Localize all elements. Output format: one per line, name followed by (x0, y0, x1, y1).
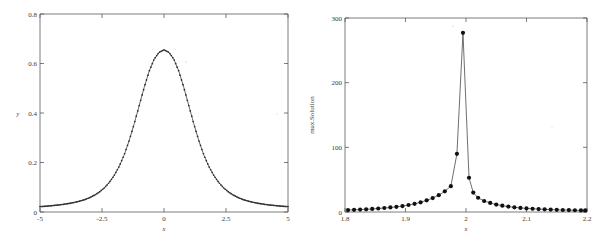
data-point (205, 160, 207, 162)
data-point (233, 195, 235, 197)
data-point (268, 204, 270, 206)
data-point (157, 53, 159, 55)
data-point (286, 206, 288, 208)
data-point (281, 205, 283, 207)
data-point (500, 204, 504, 208)
data-curve (40, 50, 288, 207)
data-point (254, 202, 256, 204)
data-point (99, 191, 101, 193)
data-point (141, 94, 143, 96)
data-point (146, 79, 148, 81)
data-point (494, 202, 498, 206)
left-plot-tick-labels: 00.20.40.60.8-5-2.502.55 (28, 11, 290, 224)
data-point (192, 121, 194, 123)
data-point (255, 202, 257, 204)
data-point (89, 197, 91, 199)
data-point (278, 205, 280, 207)
left-plot-xlabel: x (162, 225, 166, 232)
data-point (583, 208, 587, 212)
data-point (211, 172, 213, 174)
data-point (153, 59, 155, 61)
data-point (245, 199, 247, 201)
data-point (400, 204, 404, 208)
data-point (219, 182, 221, 184)
data-point (179, 74, 181, 76)
data-point (80, 200, 82, 202)
data-point (95, 194, 97, 196)
y-tick-label: 0.6 (28, 60, 37, 68)
data-point (182, 84, 184, 86)
data-point (443, 189, 447, 193)
data-point (216, 178, 218, 180)
data-point (65, 203, 67, 205)
data-point (543, 207, 547, 211)
y-tick-label: 0.2 (28, 159, 37, 167)
data-point (195, 131, 197, 133)
left-plot-panel: 00.20.40.60.8-5-2.502.55 x y (0, 0, 298, 251)
y-tick-label: 0.8 (28, 11, 37, 19)
data-point (198, 140, 200, 142)
data-point (170, 55, 172, 57)
data-point (51, 205, 53, 207)
data-point (232, 194, 234, 196)
data-point (116, 169, 118, 171)
data-point (512, 205, 516, 209)
data-point (67, 203, 69, 205)
data-point (39, 206, 41, 208)
data-point (461, 31, 465, 35)
right-plot-curve (348, 33, 585, 211)
data-point (46, 205, 48, 207)
data-point (283, 205, 285, 207)
data-point (62, 203, 64, 205)
data-point (114, 174, 116, 176)
data-point (352, 208, 356, 212)
data-point (257, 202, 259, 204)
data-point (242, 199, 244, 201)
x-tick-label: -2.5 (96, 215, 108, 223)
data-point (45, 205, 47, 207)
data-point (60, 204, 62, 206)
data-point (115, 172, 117, 174)
data-point (549, 208, 553, 212)
data-point (280, 205, 282, 207)
data-point (239, 197, 241, 199)
data-point (273, 205, 275, 207)
data-point (240, 198, 242, 200)
left-plot-ylabel: y (16, 110, 20, 117)
data-point (388, 205, 392, 209)
data-point (42, 206, 44, 208)
data-point (166, 50, 168, 52)
data-point (121, 160, 123, 162)
data-point (238, 197, 240, 199)
data-point (567, 208, 571, 212)
data-point (261, 203, 263, 205)
data-point (455, 152, 459, 156)
data-point (252, 201, 254, 203)
right-plot-specks (452, 25, 552, 127)
data-point (197, 135, 199, 137)
data-point (131, 131, 133, 133)
data-point (112, 176, 114, 178)
data-point (224, 188, 226, 190)
data-point (172, 57, 174, 59)
data-point (561, 208, 565, 212)
data-point (68, 203, 70, 205)
data-point (178, 70, 180, 72)
data-point (44, 205, 46, 207)
data-point (412, 202, 416, 206)
data-point (103, 187, 105, 189)
y-tick-label: 300 (332, 15, 343, 23)
data-point (188, 105, 190, 107)
data-point (579, 208, 583, 212)
x-tick-label: 2 (464, 215, 468, 223)
left-plot-curve (40, 50, 288, 207)
data-point (84, 199, 86, 201)
data-point (175, 63, 177, 65)
data-point (122, 156, 124, 158)
data-point (382, 206, 386, 210)
data-point (370, 207, 374, 211)
data-point (264, 203, 266, 205)
data-point (537, 207, 541, 211)
data-point (274, 205, 276, 207)
data-point (52, 205, 54, 207)
